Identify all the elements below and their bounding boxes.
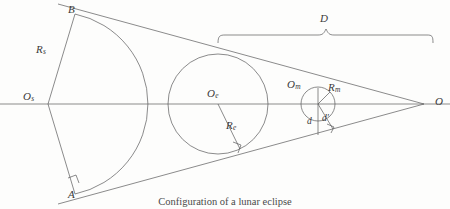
- upper-tangent-line: [58, 4, 424, 104]
- label-sun-center-sub: s: [31, 94, 34, 103]
- lunar-eclipse-figure: B A O Rs Os Oe Re Om Rm D d d' Configura…: [0, 0, 450, 209]
- label-moon-center-base: O: [287, 78, 295, 90]
- sun-radius-upper-line: [48, 14, 75, 104]
- label-sun-center-base: O: [23, 90, 31, 102]
- distance-d-brace: [218, 29, 433, 43]
- figure-caption: Configuration of a lunar eclipse: [0, 196, 450, 207]
- label-moon-radius-base: R: [328, 81, 335, 93]
- label-distance-d-prime: d': [322, 114, 329, 124]
- label-earth-radius: Re: [226, 120, 236, 132]
- label-point-b: B: [68, 4, 75, 15]
- label-sun-center: Os: [23, 91, 34, 103]
- label-earth-radius-sub: e: [233, 123, 236, 132]
- lower-tangent-line: [58, 104, 424, 204]
- label-sun-radius-sub: s: [43, 47, 46, 56]
- diagram-lines: [0, 4, 450, 204]
- label-moon-center-sub: m: [295, 82, 300, 91]
- label-earth-center-sub: e: [215, 91, 218, 100]
- label-earth-center: Oe: [207, 88, 218, 100]
- label-moon-center: Om: [287, 79, 301, 91]
- label-distance-small-d: d: [307, 117, 312, 127]
- label-earth-radius-base: R: [226, 119, 233, 131]
- sun-radius-lower-line: [48, 104, 75, 194]
- diagram-canvas: [0, 0, 450, 209]
- label-distance-d: D: [320, 13, 328, 24]
- label-sun-radius-base: R: [36, 43, 43, 55]
- label-moon-radius: Rm: [328, 82, 340, 94]
- label-moon-radius-sub: m: [335, 85, 340, 94]
- label-point-o: O: [435, 96, 443, 107]
- right-angle-mark-dprime: [327, 124, 334, 133]
- label-earth-center-base: O: [207, 87, 215, 99]
- label-sun-radius: Rs: [36, 44, 46, 56]
